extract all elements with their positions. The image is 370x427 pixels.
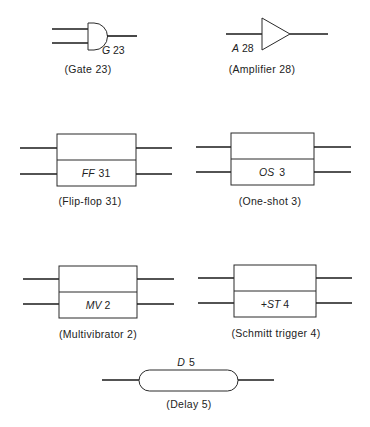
multivibrator-label-number: 2	[104, 299, 110, 311]
one-shot-label-prefix: OS	[259, 166, 274, 178]
schmitt-trigger-label-prefix: +ST	[261, 298, 282, 310]
schmitt-trigger-caption: (Schmitt trigger 4)	[231, 327, 320, 339]
amplifier-caption: (Amplifier 28)	[229, 63, 296, 75]
delay-symbol: D5 (Delay 5)	[102, 356, 274, 410]
amplifier-triangle	[262, 18, 290, 50]
gate-caption: (Gate 23)	[64, 63, 111, 75]
flip-flop-label-prefix: FF	[82, 167, 95, 179]
schmitt-trigger-label: +ST4	[261, 298, 290, 310]
amplifier-label-number: 28	[242, 42, 254, 54]
gate-label-number: 23	[113, 44, 125, 56]
multivibrator-label: MV2	[86, 299, 111, 311]
flip-flop-caption: (Flip-flop 31)	[58, 195, 121, 207]
delay-caption: (Delay 5)	[166, 398, 211, 410]
amplifier-label-prefix: A	[231, 42, 239, 54]
multivibrator-label-prefix: MV	[86, 299, 103, 311]
flip-flop-label-number: 31	[99, 167, 111, 179]
flip-flop-symbol: FF31 (Flip-flop 31)	[20, 134, 172, 207]
delay-label-number: 5	[189, 356, 195, 368]
gate-symbol: G 23 (Gate 23)	[52, 23, 137, 75]
delay-label: D5	[177, 356, 195, 368]
one-shot-label: OS3	[259, 166, 285, 178]
multivibrator-symbol: MV2 (Multivibrator 2)	[23, 266, 174, 340]
one-shot-caption: (One-shot 3)	[239, 195, 302, 207]
amplifier-symbol: A 28 (Amplifier 28)	[226, 18, 328, 75]
gate-label-prefix: G	[102, 44, 110, 56]
schmitt-trigger-label-number: 4	[283, 298, 289, 310]
schmitt-trigger-symbol: +ST4 (Schmitt trigger 4)	[198, 265, 352, 339]
multivibrator-caption: (Multivibrator 2)	[59, 328, 137, 340]
logic-symbols-diagram: G 23 (Gate 23) A 28 (Amplifier 28) FF31 …	[0, 0, 370, 427]
delay-pill	[139, 370, 238, 391]
delay-label-prefix: D	[177, 356, 185, 368]
one-shot-label-number: 3	[279, 166, 285, 178]
one-shot-symbol: OS3 (One-shot 3)	[196, 133, 351, 207]
